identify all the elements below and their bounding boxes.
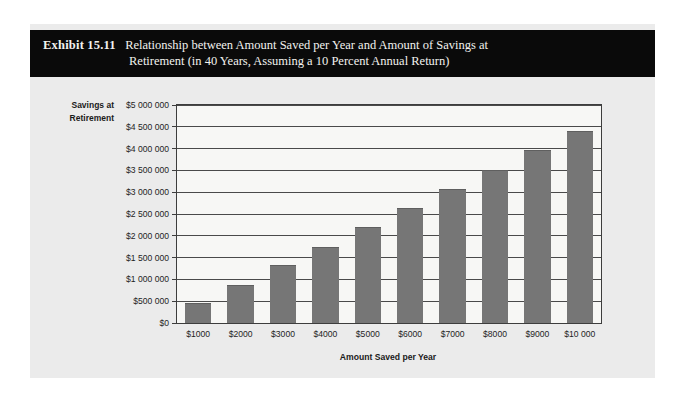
y-axis-tick — [172, 235, 177, 236]
x-axis-title: Amount Saved per Year — [176, 352, 600, 362]
x-axis-tick-label: $1000 — [186, 329, 210, 339]
bar — [270, 265, 296, 323]
x-axis-tick-label: $6000 — [398, 329, 422, 339]
y-axis-title-line-1: Savings at — [52, 99, 114, 112]
exhibit-figure: Exhibit 15.11 Relationship between Amoun… — [0, 0, 685, 402]
y-axis-tick-label: $1 000 000 — [126, 274, 169, 284]
y-axis-tick — [172, 301, 177, 302]
y-axis-tick-label: $3 500 000 — [126, 165, 169, 175]
exhibit-title-line-1: Exhibit 15.11 Relationship between Amoun… — [43, 37, 655, 53]
bar — [397, 208, 423, 323]
plot-area: $0$500 000$1 000 000$1 500 000$2 000 000… — [176, 104, 602, 324]
y-axis-tick — [172, 214, 177, 215]
gridline — [177, 126, 601, 127]
x-axis-tick-label: $8000 — [483, 329, 507, 339]
y-axis-tick-label: $1 500 000 — [126, 253, 169, 263]
x-axis-tick-label: $10 000 — [564, 329, 595, 339]
exhibit-title-line-2: Retirement (in 40 Years, Assuming a 10 P… — [43, 53, 655, 69]
bar — [439, 189, 465, 323]
y-axis-tick — [172, 105, 177, 106]
x-axis-tick-label: $3000 — [271, 329, 295, 339]
bar — [567, 131, 593, 323]
y-axis-title-line-2: Retirement — [52, 112, 114, 125]
y-axis-tick — [172, 323, 177, 324]
y-axis-tick-label: $3 000 000 — [126, 187, 169, 197]
x-axis-tick-label: $9000 — [525, 329, 549, 339]
exhibit-title-text-1: Relationship between Amount Saved per Ye… — [125, 38, 488, 52]
y-axis-title: Savings at Retirement — [52, 99, 114, 124]
bar — [185, 303, 211, 323]
y-axis-tick-label: $4 000 000 — [126, 144, 169, 154]
x-axis-tick-label: $7000 — [441, 329, 465, 339]
gridline — [177, 105, 601, 106]
bar — [482, 170, 508, 323]
y-axis-tick-label: $5 000 000 — [126, 100, 169, 110]
bar — [355, 227, 381, 323]
exhibit-title-banner: Exhibit 15.11 Relationship between Amoun… — [30, 30, 655, 77]
y-axis-tick-label: $500 000 — [133, 296, 169, 306]
gridline — [177, 148, 601, 149]
y-axis-tick — [172, 148, 177, 149]
y-axis-tick — [172, 126, 177, 127]
bar — [227, 285, 253, 323]
x-axis-tick-label: $5000 — [356, 329, 380, 339]
y-axis-tick-label: $2 000 000 — [126, 231, 169, 241]
bar — [524, 150, 550, 323]
y-axis-tick-label: $4 500 000 — [126, 122, 169, 132]
x-axis-tick-label: $4000 — [313, 329, 337, 339]
y-axis-tick — [172, 192, 177, 193]
y-axis-tick — [172, 257, 177, 258]
y-axis-tick-label: $2 500 000 — [126, 209, 169, 219]
bar — [312, 247, 338, 323]
x-axis-tick-label: $2000 — [229, 329, 253, 339]
y-axis-tick — [172, 170, 177, 171]
exhibit-label: Exhibit 15.11 — [43, 38, 116, 52]
y-axis-tick — [172, 279, 177, 280]
y-axis-tick-label: $0 — [159, 318, 169, 328]
